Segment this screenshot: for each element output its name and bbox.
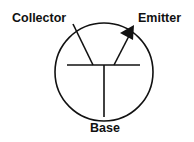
collector-lead	[73, 24, 93, 65]
base-label: Base	[90, 122, 120, 135]
collector-label: Collector	[12, 12, 66, 25]
emitter-lead	[114, 34, 130, 65]
emitter-label: Emitter	[138, 12, 181, 25]
